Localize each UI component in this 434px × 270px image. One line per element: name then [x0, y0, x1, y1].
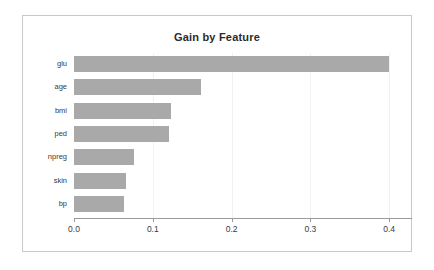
x-tick-0.3: [310, 218, 311, 222]
plot-area: Gain by Feature gluagebmipednpregskinbp …: [23, 16, 411, 251]
bar-label-bmi: bmi: [23, 106, 67, 115]
x-tick-label-0.0: 0.0: [54, 224, 94, 234]
bar-row: bmi: [23, 101, 411, 124]
chart-frame: Gain by Feature gluagebmipednpregskinbp …: [22, 15, 412, 252]
bar-label-skin: skin: [23, 176, 67, 185]
bar-row: npreg: [23, 147, 411, 170]
x-tick-label-0.3: 0.3: [290, 224, 330, 234]
x-tick-0.0: [74, 218, 75, 222]
bar-row: ped: [23, 124, 411, 147]
bar-label-age: age: [23, 82, 67, 91]
x-tick-label-0.1: 0.1: [133, 224, 173, 234]
bar-ped: [74, 126, 169, 142]
bar-glu: [74, 56, 389, 72]
bar-row: age: [23, 77, 411, 100]
bar-label-npreg: npreg: [23, 152, 67, 161]
x-tick-label-0.4: 0.4: [369, 224, 409, 234]
bar-skin: [74, 173, 126, 189]
bar-npreg: [74, 149, 134, 165]
x-tick-0.1: [153, 218, 154, 222]
x-axis-line: [74, 218, 412, 219]
bar-bp: [74, 196, 124, 212]
bar-label-bp: bp: [23, 199, 67, 208]
bar-label-ped: ped: [23, 129, 67, 138]
x-tick-0.2: [232, 218, 233, 222]
bar-bmi: [74, 103, 171, 119]
chart-title: Gain by Feature: [23, 31, 411, 43]
bar-row: bp: [23, 194, 411, 217]
bar-row: glu: [23, 54, 411, 77]
x-tick-0.4: [389, 218, 390, 222]
bar-row: skin: [23, 171, 411, 194]
bar-label-glu: glu: [23, 59, 67, 68]
bar-age: [74, 79, 201, 95]
x-tick-label-0.2: 0.2: [212, 224, 252, 234]
